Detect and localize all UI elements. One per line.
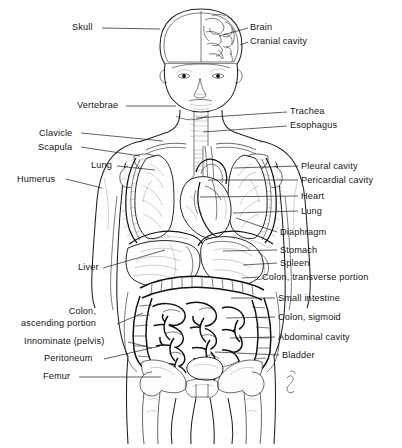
label-trachea: Trachea [290, 106, 324, 118]
cervical-vertebrae [190, 110, 208, 146]
label-lung-left: Lung [91, 160, 112, 172]
label-bladder: Bladder [282, 350, 315, 362]
label-spleen: Spleen [280, 258, 310, 270]
label-colon-ascending: Colon, ascending portion [21, 306, 96, 329]
label-heart: Heart [301, 191, 324, 203]
leader-humerus [66, 179, 102, 188]
curly-mark [287, 371, 295, 393]
leader-skull [102, 28, 160, 29]
heart [180, 159, 231, 248]
label-skull: Skull [72, 22, 93, 34]
label-clavicle: Clavicle [39, 128, 72, 140]
label-liver: Liver [78, 262, 99, 274]
anatomy-figure: SkullVertebraeClavicleScapulaLungHumerus… [0, 0, 402, 448]
label-lung-right: Lung [301, 206, 322, 218]
label-pleural-cavity: Pleural cavity [301, 161, 358, 173]
label-scapula: Scapula [38, 142, 72, 154]
label-small-intestine: Small intestine [278, 293, 340, 305]
label-vertebrae: Vertebrae [77, 100, 118, 112]
label-colon-transverse: Colon, transverse portion [262, 272, 368, 284]
label-peritoneum: Peritoneum [44, 353, 92, 365]
label-cranial-cavity: Cranial cavity [250, 36, 307, 48]
label-diaphragm: Diaphragm [280, 227, 326, 239]
label-femur: Femur [43, 371, 70, 383]
label-esophagus: Esophagus [290, 120, 337, 132]
label-innominate-pelvis: Innominate (pelvis) [24, 336, 104, 348]
label-pericardial-cavity: Pericardial cavity [301, 175, 373, 187]
label-abdominal-cavity: Abdominal cavity [278, 332, 350, 344]
label-humerus: Humerus [17, 174, 55, 186]
label-brain: Brain [250, 22, 272, 34]
leader-trachea [196, 112, 287, 118]
head-group [160, 9, 242, 112]
label-stomach: Stomach [280, 245, 317, 257]
label-colon-sigmoid: Colon, sigmoid [278, 312, 341, 324]
